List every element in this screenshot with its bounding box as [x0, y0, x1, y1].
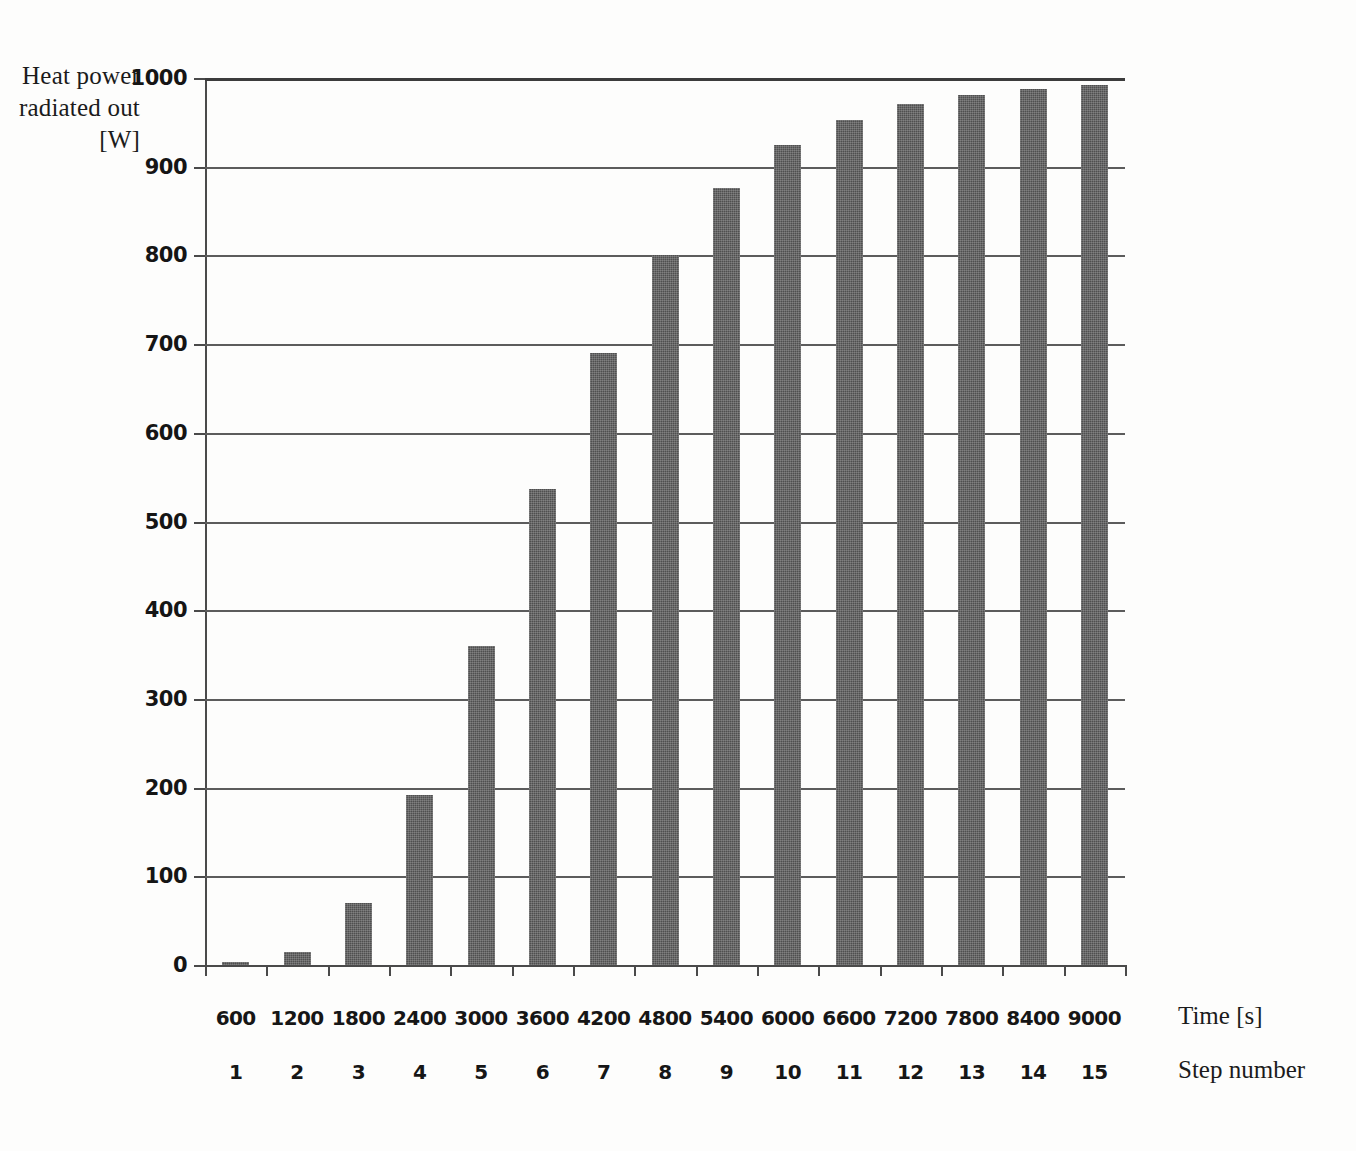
bar [774, 145, 801, 965]
y-axis-title-line-1: Heat power [0, 60, 140, 92]
x-tick-label-step: 10 [774, 1060, 801, 1084]
y-tick-label-400: 400 [145, 598, 187, 622]
y-axis-title-line-2: radiated out [0, 92, 140, 124]
bar [836, 120, 863, 965]
bar [1020, 89, 1047, 965]
y-tick-mark-200 [194, 788, 205, 790]
y-tick-mark-0 [194, 965, 205, 967]
y-tick-label-500: 500 [145, 510, 187, 534]
y-tick-mark-500 [194, 522, 205, 524]
x-tick-label-time: 1800 [332, 1006, 385, 1030]
y-tick-label-1000: 1000 [131, 66, 187, 90]
y-tick-label-300: 300 [145, 687, 187, 711]
gridline-0 [205, 965, 1125, 967]
x-tick-mark-0 [205, 965, 207, 976]
y-tick-label-800: 800 [145, 243, 187, 267]
bar [897, 104, 924, 965]
y-tick-label-600: 600 [145, 421, 187, 445]
x-tick-mark-1 [266, 965, 268, 976]
x-tick-label-step: 7 [597, 1060, 610, 1084]
x-tick-mark-3 [389, 965, 391, 976]
y-tick-label-100: 100 [145, 864, 187, 888]
y-tick-mark-300 [194, 699, 205, 701]
bar [345, 903, 372, 965]
x-tick-label-time: 5400 [700, 1006, 753, 1030]
bar [222, 962, 249, 965]
bar [590, 353, 617, 965]
gridline-900 [205, 167, 1125, 169]
x-tick-label-time: 4200 [577, 1006, 630, 1030]
x-tick-label-step: 8 [658, 1060, 671, 1084]
x-tick-mark-15 [1125, 965, 1127, 976]
y-tick-mark-400 [194, 610, 205, 612]
x-tick-label-step: 1 [229, 1060, 242, 1084]
x-tick-label-step: 9 [720, 1060, 733, 1084]
x-tick-mark-11 [880, 965, 882, 976]
x-tick-mark-6 [573, 965, 575, 976]
x-tick-label-time: 9000 [1068, 1006, 1121, 1030]
x-tick-label-step: 11 [836, 1060, 863, 1084]
bar [284, 952, 311, 965]
y-tick-mark-700 [194, 344, 205, 346]
x-tick-label-time: 8400 [1006, 1006, 1059, 1030]
x-tick-label-step: 15 [1081, 1060, 1108, 1084]
gridline-1000 [205, 78, 1125, 81]
x-tick-mark-9 [757, 965, 759, 976]
x-tick-mark-12 [941, 965, 943, 976]
x-tick-label-step: 2 [290, 1060, 303, 1084]
x-tick-label-step: 14 [1020, 1060, 1047, 1084]
x-tick-label-time: 6600 [822, 1006, 875, 1030]
bar [468, 646, 495, 965]
y-tick-label-0: 0 [173, 953, 187, 977]
x-tick-mark-4 [450, 965, 452, 976]
x-tick-mark-5 [512, 965, 514, 976]
x-tick-label-time: 4800 [638, 1006, 691, 1030]
bar [652, 255, 679, 965]
x-tick-mark-8 [696, 965, 698, 976]
x-tick-label-time: 3600 [516, 1006, 569, 1030]
x-tick-label-step: 12 [897, 1060, 924, 1084]
x-tick-label-step: 6 [536, 1060, 549, 1084]
bar [958, 95, 985, 965]
y-tick-label-700: 700 [145, 332, 187, 356]
y-axis-title-line-3: [W] [0, 124, 140, 156]
y-tick-mark-100 [194, 876, 205, 878]
bar [406, 795, 433, 965]
plot-area: 01002003004005006007008009001000 [205, 78, 1125, 965]
y-tick-mark-600 [194, 433, 205, 435]
y-tick-label-900: 900 [145, 155, 187, 179]
y-tick-label-200: 200 [145, 776, 187, 800]
x-tick-label-time: 600 [216, 1006, 256, 1030]
bar [713, 188, 740, 965]
x-tick-label-step: 13 [958, 1060, 985, 1084]
x-tick-label-time: 7800 [945, 1006, 998, 1030]
x-axis-time-caption: Time [s] [1178, 1002, 1263, 1030]
x-axis-step-caption: Step number [1178, 1056, 1305, 1084]
x-tick-mark-2 [328, 965, 330, 976]
y-tick-mark-1000 [194, 78, 205, 80]
x-tick-mark-14 [1064, 965, 1066, 976]
x-tick-label-time: 7200 [884, 1006, 937, 1030]
x-tick-label-time: 2400 [393, 1006, 446, 1030]
y-axis-title: Heat power radiated out [W] [0, 60, 140, 156]
x-tick-label-step: 5 [474, 1060, 487, 1084]
x-tick-label-step: 4 [413, 1060, 426, 1084]
bar [1081, 85, 1108, 965]
x-tick-mark-7 [634, 965, 636, 976]
x-tick-label-time: 6000 [761, 1006, 814, 1030]
x-tick-mark-10 [818, 965, 820, 976]
x-tick-label-step: 3 [352, 1060, 365, 1084]
y-tick-mark-800 [194, 255, 205, 257]
x-tick-label-time: 3000 [454, 1006, 507, 1030]
y-tick-mark-900 [194, 167, 205, 169]
x-axis-time-labels: 6001200180024003000360042004800540060006… [205, 1006, 1125, 1036]
x-tick-label-time: 1200 [270, 1006, 323, 1030]
x-tick-mark-13 [1002, 965, 1004, 976]
x-axis-step-labels: 123456789101112131415 [205, 1060, 1125, 1090]
bar [529, 489, 556, 965]
